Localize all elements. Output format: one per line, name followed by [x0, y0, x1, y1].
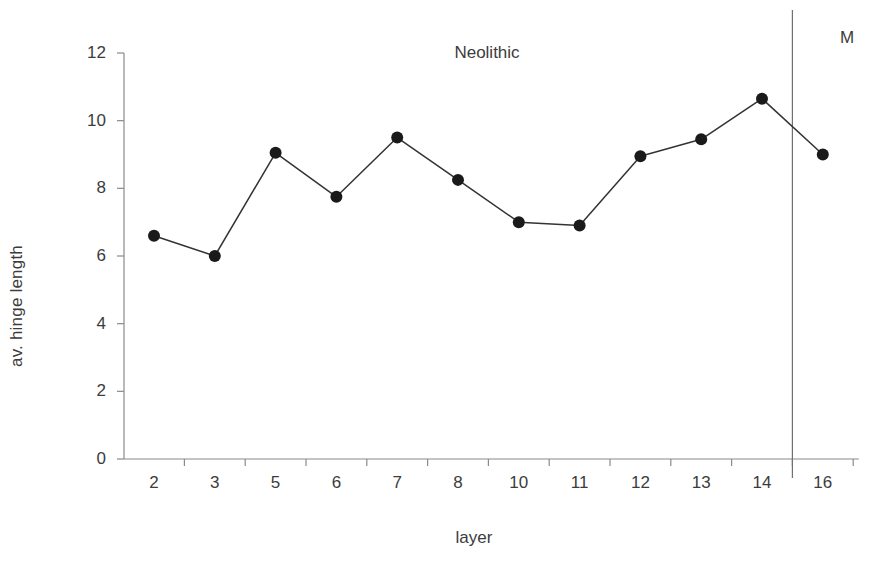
data-point-marker: [756, 93, 768, 105]
x-tick-label: 13: [681, 473, 721, 493]
data-point-marker: [634, 150, 646, 162]
data-point-marker: [148, 230, 160, 242]
data-point-marker: [452, 174, 464, 186]
x-tick-label: 16: [803, 473, 843, 493]
x-tick-label: 12: [620, 473, 660, 493]
y-tick-label: 6: [66, 246, 106, 266]
x-tick-label: 2: [134, 473, 174, 493]
x-tick-label: 8: [438, 473, 478, 493]
x-tick-label: 5: [256, 473, 296, 493]
x-tick-label: 6: [316, 473, 356, 493]
y-tick-label: 0: [66, 449, 106, 469]
x-tick-label: 11: [560, 473, 600, 493]
y-tick-label: 8: [66, 178, 106, 198]
x-tick-label: 10: [499, 473, 539, 493]
data-point-marker: [209, 250, 221, 262]
y-tick-label: 4: [66, 314, 106, 334]
y-tick-label: 2: [66, 381, 106, 401]
x-tick-label: 3: [195, 473, 235, 493]
y-tick-label: 12: [66, 43, 106, 63]
data-point-marker: [330, 191, 342, 203]
data-point-marker: [391, 132, 403, 144]
x-tick-label: 14: [742, 473, 782, 493]
data-point-marker: [513, 216, 525, 228]
data-point-marker: [574, 220, 586, 232]
chart-container: av. hinge length layer Neolithic M 02468…: [0, 0, 878, 567]
data-point-marker: [695, 133, 707, 145]
data-point-marker: [270, 147, 282, 159]
x-tick-label: 7: [377, 473, 417, 493]
y-tick-label: 10: [66, 111, 106, 131]
series-line: [154, 99, 823, 256]
data-point-marker: [817, 149, 829, 161]
